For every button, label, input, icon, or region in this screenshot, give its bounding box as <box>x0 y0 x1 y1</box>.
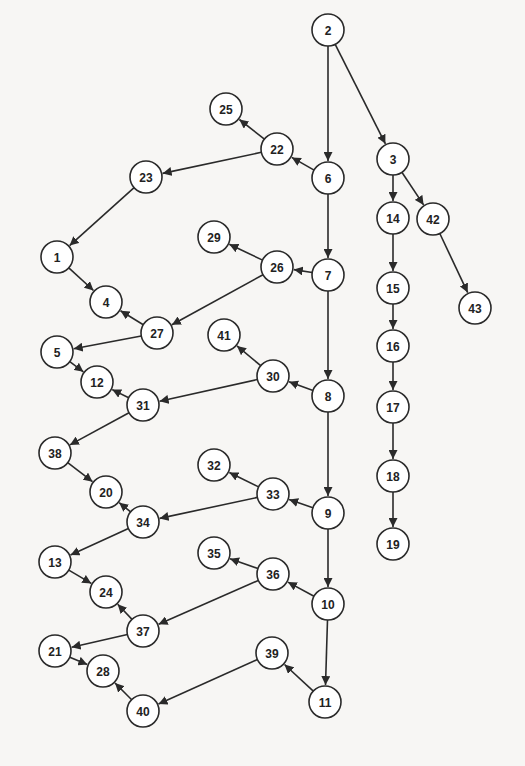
edge-34-to-20 <box>119 503 130 512</box>
node-label: 29 <box>207 231 221 245</box>
node-label: 37 <box>136 625 150 639</box>
node-35: 35 <box>198 537 230 569</box>
edge-30-to-41 <box>237 346 261 366</box>
node-13: 13 <box>39 546 71 578</box>
node-label: 7 <box>325 269 332 283</box>
node-43: 43 <box>459 292 491 324</box>
node-42: 42 <box>417 203 449 235</box>
node-label: 39 <box>265 647 279 661</box>
edge-36-to-35 <box>230 559 258 569</box>
edge-11-to-39 <box>285 665 314 692</box>
edge-36-to-37 <box>159 580 259 624</box>
node-label: 30 <box>266 370 280 384</box>
node-label: 1 <box>54 251 61 265</box>
edge-7-to-26 <box>294 270 312 273</box>
node-label: 23 <box>139 171 153 185</box>
node-23: 23 <box>130 161 162 193</box>
node-18: 18 <box>377 460 409 492</box>
node-label: 17 <box>386 401 400 415</box>
node-label: 10 <box>321 598 335 612</box>
node-4: 4 <box>90 286 122 318</box>
edge-34-to-13 <box>71 529 129 555</box>
node-15: 15 <box>377 272 409 304</box>
edge-23-to-1 <box>70 188 135 246</box>
node-label: 15 <box>386 282 400 296</box>
edge-2-to-3 <box>335 44 385 144</box>
node-25: 25 <box>210 93 242 125</box>
node-36: 36 <box>257 558 289 590</box>
node-2: 2 <box>312 14 344 46</box>
node-41: 41 <box>208 319 240 351</box>
edge-22-to-23 <box>163 152 262 173</box>
node-40: 40 <box>127 695 159 727</box>
edge-33-to-34 <box>160 497 258 518</box>
node-label: 8 <box>325 390 332 404</box>
node-29: 29 <box>198 221 230 253</box>
node-30: 30 <box>257 360 289 392</box>
node-28: 28 <box>87 655 119 687</box>
node-label: 20 <box>99 486 113 500</box>
node-7: 7 <box>312 259 344 291</box>
edge-30-to-31 <box>160 380 258 402</box>
node-label: 40 <box>136 705 150 719</box>
edge-1-to-4 <box>69 268 94 291</box>
node-label: 31 <box>136 399 150 413</box>
node-20: 20 <box>90 476 122 508</box>
edge-38-to-20 <box>68 463 93 482</box>
node-label: 16 <box>386 340 400 354</box>
edge-40-to-28 <box>115 683 132 700</box>
node-label: 6 <box>325 172 332 186</box>
node-label: 42 <box>426 213 440 227</box>
node-label: 13 <box>48 556 62 570</box>
node-17: 17 <box>377 391 409 423</box>
node-label: 35 <box>207 547 221 561</box>
edge-26-to-27 <box>172 275 263 325</box>
edge-42-to-43 <box>440 234 468 293</box>
node-9: 9 <box>312 497 344 529</box>
node-label: 26 <box>270 261 284 275</box>
edge-37-to-24 <box>118 604 132 619</box>
edge-3-to-42 <box>402 172 424 205</box>
edge-9-to-33 <box>289 500 313 508</box>
node-label: 28 <box>96 665 110 679</box>
edge-10-to-36 <box>288 582 314 596</box>
edge-5-to-12 <box>70 362 84 372</box>
node-14: 14 <box>377 202 409 234</box>
node-10: 10 <box>312 588 344 620</box>
edge-33-to-32 <box>229 473 258 487</box>
node-label: 19 <box>386 538 400 552</box>
tree-diagram: 2362225231472629275830413112382093332341… <box>0 0 525 766</box>
node-6: 6 <box>312 162 344 194</box>
edge-13-to-24 <box>69 570 92 583</box>
node-label: 32 <box>207 459 221 473</box>
node-12: 12 <box>81 366 113 398</box>
node-label: 27 <box>150 327 164 341</box>
node-label: 14 <box>386 212 400 226</box>
edge-31-to-12 <box>112 390 129 398</box>
node-label: 21 <box>48 645 62 659</box>
edge-8-to-30 <box>289 382 313 391</box>
edge-21-to-28 <box>70 657 88 664</box>
node-label: 22 <box>270 143 284 157</box>
node-5: 5 <box>41 336 73 368</box>
edge-37-to-21 <box>72 635 128 648</box>
node-34: 34 <box>127 506 159 538</box>
node-26: 26 <box>261 251 293 283</box>
node-label: 43 <box>468 302 482 316</box>
node-label: 24 <box>99 586 113 600</box>
edge-27-to-5 <box>74 336 142 349</box>
node-label: 18 <box>386 470 400 484</box>
node-31: 31 <box>127 389 159 421</box>
node-label: 33 <box>266 488 280 502</box>
node-label: 36 <box>266 568 280 582</box>
node-21: 21 <box>39 635 71 667</box>
node-label: 34 <box>136 516 150 530</box>
node-11: 11 <box>309 686 341 718</box>
node-label: 2 <box>325 24 332 38</box>
node-label: 38 <box>48 447 62 461</box>
node-label: 25 <box>219 103 233 117</box>
edge-10-to-11 <box>326 620 328 685</box>
node-37: 37 <box>127 615 159 647</box>
node-3: 3 <box>377 143 409 175</box>
node-38: 38 <box>39 437 71 469</box>
